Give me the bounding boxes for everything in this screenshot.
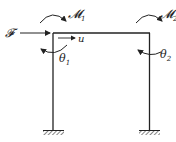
moment1-label: 𝓜1 [68, 7, 85, 23]
moment2-arrow [136, 15, 162, 23]
frame [53, 33, 150, 131]
displacement-label: u [78, 33, 84, 44]
theta2-label: θ2 [160, 48, 172, 63]
moment1-arrow [40, 15, 66, 23]
force-label: 𝓕 [5, 26, 18, 40]
theta1-label: θ1 [59, 52, 70, 67]
portal-frame-diagram: 𝓕 u 𝓜1 θ1 𝓜2 θ2 [0, 0, 176, 142]
left-fixed-support [43, 130, 64, 135]
right-fixed-support [139, 130, 160, 135]
moment2-label: 𝓜2 [160, 7, 176, 23]
